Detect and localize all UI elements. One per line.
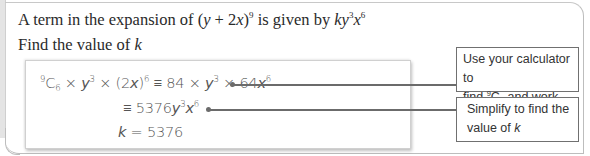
var-k: k <box>118 124 126 140</box>
example-frame-corner <box>5 128 20 155</box>
x-power: 6 <box>361 10 366 20</box>
op: × 64 <box>219 75 258 91</box>
working-line-3: k = 5376 <box>118 124 183 140</box>
value: ≡ 5376 <box>123 100 172 116</box>
var-k: k <box>134 35 141 54</box>
op: ≡ 84 × <box>149 75 205 91</box>
question-line-1: A term in the expansion of (y + 2x)9 is … <box>18 7 365 32</box>
comb-c: C <box>45 75 55 91</box>
callout-simplify: Simplify to find the value of k <box>456 97 579 142</box>
var-y: y <box>342 10 349 29</box>
working-line-2: ≡ 5376y3x6 <box>123 100 199 116</box>
var-x: x <box>185 100 193 116</box>
op: × (2 <box>95 75 130 91</box>
var-k: k <box>514 121 520 135</box>
x-power: 6 <box>194 99 199 109</box>
working-line-1: 9C6 × y3 × (2x)6 ≡ 84 × y3 × 64x6 <box>40 75 271 91</box>
question-text: A term in the expansion of (y + 2x)9 is … <box>18 7 365 57</box>
question-prefix: A term in the expansion of ( <box>18 10 203 29</box>
answer-value: = 5376 <box>126 124 183 140</box>
expr-mid: + 2 <box>210 10 236 29</box>
var-x: x <box>236 10 243 29</box>
op: × <box>60 75 81 91</box>
var-x: x <box>257 75 265 91</box>
callout-line: Use your calculator to <box>463 50 578 88</box>
find-text: Find the value of <box>18 35 134 54</box>
var-x: x <box>353 10 360 29</box>
var-y: y <box>172 100 180 116</box>
given-text: is given by <box>254 10 335 29</box>
callout-line: Simplify to find the <box>467 100 578 119</box>
var-y: y <box>81 75 89 91</box>
connector-line-1 <box>233 84 456 86</box>
connector-line-2 <box>209 109 456 111</box>
text: value of <box>467 121 514 135</box>
var-k: k <box>334 10 341 29</box>
callout-calculator: Use your calculator to find 9C6 and work… <box>456 47 579 92</box>
question-line-2: Find the value of k <box>18 32 365 57</box>
callout-line: value of k <box>467 119 578 138</box>
x-power: 6 <box>266 74 271 84</box>
